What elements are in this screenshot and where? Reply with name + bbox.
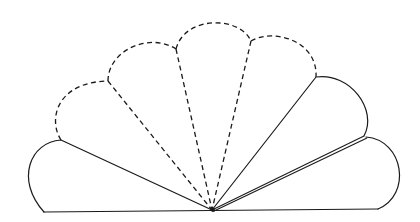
lobe-upper-right-solid <box>212 77 368 210</box>
lobe-4-dashed <box>251 36 316 77</box>
pivot-point <box>211 208 215 212</box>
double-line-inner <box>214 138 367 211</box>
fan-diagram <box>0 0 420 222</box>
lobe-3-dashed <box>176 23 251 49</box>
lobe-2-dashed-spoke <box>176 49 212 210</box>
lobe-1-dashed <box>56 81 108 140</box>
double-line-outer <box>212 136 364 210</box>
lobe-right-solid <box>366 137 400 209</box>
lobe-1-dashed-spoke <box>108 81 212 210</box>
lobe-2-dashed <box>108 42 176 81</box>
